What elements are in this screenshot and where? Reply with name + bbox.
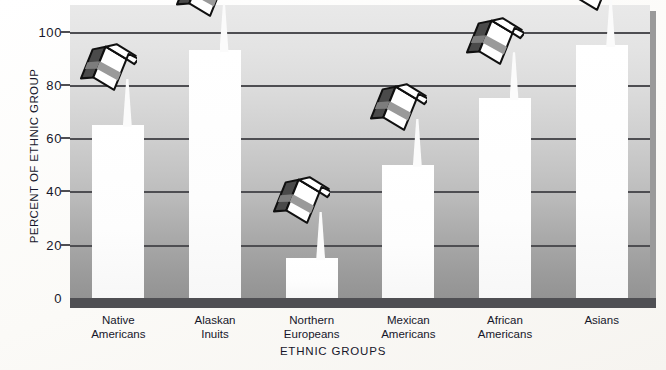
x-label-northern-europeans: NorthernEuropeans: [263, 313, 360, 341]
milk-carton: [563, 0, 620, 18]
milk-carton-icon: [370, 80, 427, 133]
x-label-line: Native: [70, 313, 167, 327]
milk-carton-icon: [176, 0, 233, 19]
y-tick-label-80: 80: [46, 77, 62, 92]
bar-native-americans: [92, 125, 144, 298]
y-tick-mark-80: [61, 84, 70, 86]
x-label-line: Inuits: [167, 327, 264, 341]
gridline-80: [70, 85, 650, 87]
plot-area: [70, 5, 650, 298]
x-label-line: African: [457, 313, 554, 327]
milk-carton-icon: [466, 14, 523, 67]
milk-carton: [370, 80, 427, 137]
x-label-line: Americans: [70, 327, 167, 341]
milk-carton-icon: [563, 0, 620, 14]
bar-alaskan-inuits: [189, 50, 241, 298]
y-axis-ticks: 020406080100: [0, 0, 70, 370]
y-tick-label-20: 20: [46, 237, 62, 252]
milk-carton: [80, 40, 137, 97]
x-label-line: Americans: [360, 327, 457, 341]
milk-carton: [273, 173, 330, 230]
milk-carton-icon: [80, 40, 137, 93]
x-label-line: Mexican: [360, 313, 457, 327]
bar-asians: [576, 45, 628, 298]
gridline-100: [70, 32, 650, 34]
x-label-native-americans: NativeAmericans: [70, 313, 167, 341]
y-tick-label-100: 100: [39, 24, 63, 39]
x-axis-title: ETHNIC GROUPS: [0, 345, 666, 357]
y-tick-mark-20: [61, 244, 70, 246]
milk-carton: [176, 0, 233, 23]
x-label-line: Asians: [553, 313, 650, 327]
gridline-60: [70, 138, 650, 140]
gridline-20: [70, 245, 650, 247]
y-tick-label-0: 0: [54, 291, 62, 306]
x-label-line: Americans: [457, 327, 554, 341]
x-label-african-americans: AfricanAmericans: [457, 313, 554, 341]
y-tick-label-40: 40: [46, 184, 62, 199]
x-label-line: Europeans: [263, 327, 360, 341]
bar-african-americans: [479, 98, 531, 298]
bar-mexican-americans: [382, 165, 434, 298]
bar-northern-europeans: [286, 258, 338, 298]
milk-carton: [466, 14, 523, 71]
y-tick-mark-100: [61, 31, 70, 33]
x-label-mexican-americans: MexicanAmericans: [360, 313, 457, 341]
x-label-alaskan-inuits: AlaskanInuits: [167, 313, 264, 341]
y-tick-mark-40: [61, 190, 70, 192]
x-label-line: Alaskan: [167, 313, 264, 327]
gridline-40: [70, 191, 650, 193]
x-label-asians: Asians: [553, 313, 650, 327]
milk-carton-icon: [273, 173, 330, 226]
y-tick-mark-60: [61, 137, 70, 139]
y-tick-label-60: 60: [46, 131, 62, 146]
x-axis-baseline: [70, 298, 656, 308]
chart-figure: PERCENT OF ETHNIC GROUP 020406080100 Nat…: [0, 0, 666, 370]
x-label-line: Northern: [263, 313, 360, 327]
